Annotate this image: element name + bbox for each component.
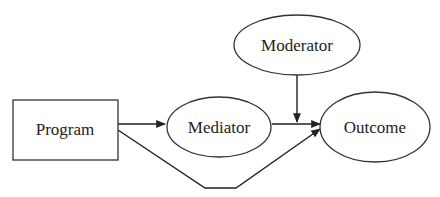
path-diagram: Program Mediator Moderator Outcome bbox=[0, 0, 440, 197]
moderator-node: Moderator bbox=[234, 15, 360, 75]
program-label: Program bbox=[36, 120, 95, 139]
outcome-node: Outcome bbox=[320, 92, 430, 162]
outcome-label: Outcome bbox=[344, 118, 406, 137]
mediator-label: Mediator bbox=[188, 118, 251, 137]
moderator-label: Moderator bbox=[261, 36, 333, 55]
mediator-node: Mediator bbox=[167, 97, 271, 157]
program-node: Program bbox=[13, 100, 118, 160]
